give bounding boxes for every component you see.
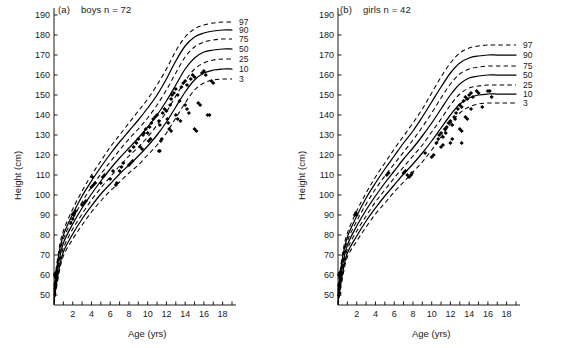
percentile-label-75: 75 <box>239 34 249 44</box>
y-tick-label: 180 <box>319 30 334 40</box>
y-tick-label: 90 <box>40 210 50 220</box>
y-tick-label: 170 <box>35 50 50 60</box>
data-point <box>454 111 458 115</box>
percentile-label-50: 50 <box>523 70 533 80</box>
y-tick-label: 190 <box>319 10 334 20</box>
percentile-curve-25 <box>54 59 232 298</box>
percentile-label-50: 50 <box>239 44 249 54</box>
y-tick-label: 160 <box>35 70 50 80</box>
y-tick-label: 70 <box>40 250 50 260</box>
percentile-label-3: 3 <box>523 98 528 108</box>
data-point <box>119 165 123 169</box>
percentile-curve-90 <box>54 30 232 289</box>
x-tick-label: 18 <box>218 309 228 319</box>
y-tick-label: 170 <box>319 50 334 60</box>
data-point <box>450 137 454 141</box>
percentile-label-25: 25 <box>239 54 249 64</box>
y-tick-label: 110 <box>320 170 334 180</box>
x-tick-label: 6 <box>392 309 397 319</box>
x-tick-label: 16 <box>199 309 209 319</box>
y-tick-label: 140 <box>35 110 50 120</box>
y-tick-label: 160 <box>319 70 334 80</box>
y-tick-label: 70 <box>324 250 334 260</box>
y-tick-label: 150 <box>319 90 334 100</box>
y-tick-label: 100 <box>319 190 334 200</box>
data-point <box>204 73 208 77</box>
percentile-curve-97 <box>338 45 516 287</box>
data-point <box>460 141 464 145</box>
y-tick-label: 50 <box>324 290 334 300</box>
data-point <box>448 141 452 145</box>
percentile-curve-10 <box>338 94 516 302</box>
x-tick-label: 8 <box>126 309 131 319</box>
data-point <box>157 119 161 123</box>
y-tick-label: 80 <box>40 230 50 240</box>
percentile-curve-3 <box>54 79 232 304</box>
data-point <box>128 149 132 153</box>
percentile-curve-10 <box>54 69 232 301</box>
data-point <box>444 131 448 135</box>
percentile-label-10: 10 <box>239 64 249 74</box>
data-point <box>99 181 103 185</box>
x-tick-label: 10 <box>143 309 153 319</box>
y-tick-label: 110 <box>36 170 50 180</box>
percentile-curve-25 <box>338 85 516 299</box>
data-point <box>121 161 125 165</box>
y-tick-label: 80 <box>324 230 334 240</box>
data-point <box>490 95 494 99</box>
percentile-curve-50 <box>338 75 516 296</box>
y-tick-label: 130 <box>35 130 50 140</box>
y-tick-label: 50 <box>40 290 50 300</box>
percentile-label-90: 90 <box>523 50 533 60</box>
x-tick-label: 2 <box>354 309 359 319</box>
y-tick-label: 120 <box>35 150 50 160</box>
y-tick-label: 150 <box>35 90 50 100</box>
data-point <box>174 113 178 117</box>
data-point <box>436 137 440 141</box>
data-point <box>132 145 136 149</box>
percentile-label-3: 3 <box>239 74 244 84</box>
x-tick-label: 4 <box>373 309 378 319</box>
percentile-curve-3 <box>338 103 516 305</box>
y-tick-label: 190 <box>35 10 50 20</box>
x-tick-label: 18 <box>502 309 512 319</box>
data-point <box>185 107 189 111</box>
x-tick-label: 14 <box>180 309 190 319</box>
data-point <box>183 103 187 107</box>
chart-svg-boys: 5060708090100110120130140150160170180190… <box>0 0 287 348</box>
y-tick-label: 90 <box>324 210 334 220</box>
y-tick-label: 180 <box>35 30 50 40</box>
x-tick-label: 6 <box>108 309 113 319</box>
y-tick-label: 60 <box>40 270 50 280</box>
scatter-group <box>53 69 216 279</box>
y-tick-label: 60 <box>324 270 334 280</box>
percentile-curve-50 <box>54 49 232 295</box>
data-point <box>480 105 484 109</box>
data-point <box>176 93 180 97</box>
data-point <box>189 77 193 81</box>
x-tick-label: 2 <box>70 309 75 319</box>
x-tick-label: 8 <box>410 309 415 319</box>
x-tick-label: 10 <box>427 309 437 319</box>
y-tick-label: 140 <box>319 110 334 120</box>
percentile-label-97: 97 <box>523 40 533 50</box>
percentile-curve-75 <box>338 66 516 293</box>
x-tick-label: 12 <box>445 309 455 319</box>
chart-panel-boys: (a) boys n = 72 Height (cm) Age (yrs) 50… <box>0 0 287 348</box>
data-point <box>108 177 112 181</box>
data-point <box>161 111 165 115</box>
x-tick-label: 14 <box>464 309 474 319</box>
x-tick-label: 16 <box>483 309 493 319</box>
figure-root: (a) boys n = 72 Height (cm) Age (yrs) 50… <box>0 0 575 348</box>
percentile-curve-75 <box>54 39 232 292</box>
data-point <box>469 107 473 111</box>
y-tick-label: 120 <box>319 150 334 160</box>
x-tick-label: 4 <box>89 309 94 319</box>
y-tick-label: 130 <box>319 130 334 140</box>
data-point <box>187 111 191 115</box>
chart-svg-girls: 5060708090100110120130140150160170180190… <box>288 0 575 348</box>
x-tick-label: 12 <box>161 309 171 319</box>
y-tick-label: 100 <box>35 190 50 200</box>
percentile-curve-97 <box>54 22 232 286</box>
chart-panel-girls: (b) girls n = 42 Height (cm) Age (yrs) 5… <box>288 0 575 348</box>
